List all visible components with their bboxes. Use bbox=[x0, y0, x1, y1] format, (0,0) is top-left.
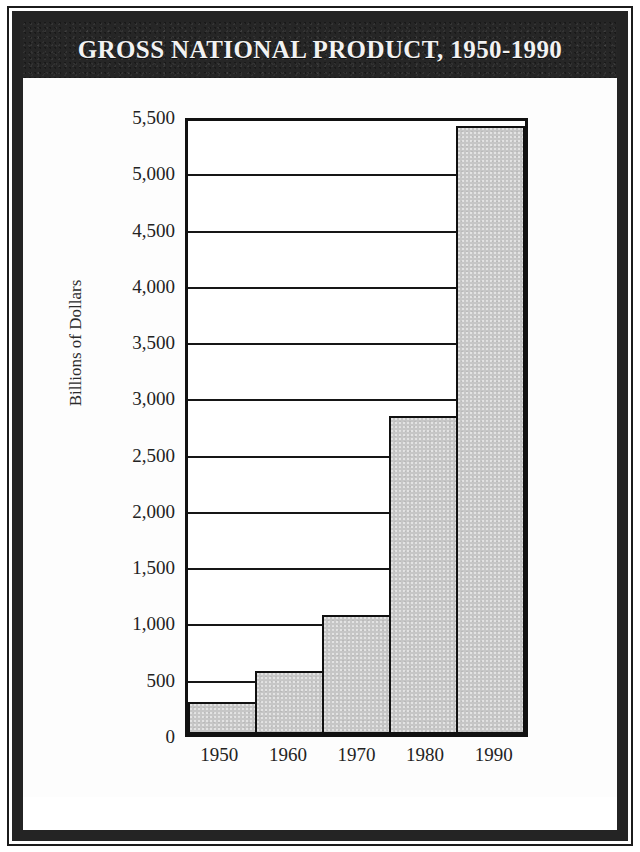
x-axis-tick-label: 1970 bbox=[322, 744, 391, 766]
y-axis-tick-label: 2,000 bbox=[79, 501, 175, 523]
x-axis-tick-labels: 19501960197019801990 bbox=[185, 744, 528, 766]
plot-area bbox=[185, 118, 528, 737]
y-axis-tick-label: 3,500 bbox=[79, 332, 175, 354]
page-title: GROSS NATIONAL PRODUCT, 1950-1990 bbox=[78, 36, 563, 64]
bar-1990 bbox=[456, 126, 525, 734]
y-axis-tick-label: 0 bbox=[79, 726, 175, 748]
x-axis-tick-label: 1950 bbox=[185, 744, 254, 766]
chart-card: Billions of Dollars 05001,0001,5002,0002… bbox=[23, 78, 617, 797]
bar-1970 bbox=[322, 615, 391, 734]
x-axis-tick-label: 1960 bbox=[254, 744, 323, 766]
y-axis-tick-labels: 05001,0001,5002,0002,5003,0003,5004,0004… bbox=[75, 118, 175, 737]
bar-1950 bbox=[188, 702, 257, 734]
poster: GROSS NATIONAL PRODUCT, 1950-1990 Billio… bbox=[0, 0, 640, 852]
bar-series bbox=[188, 121, 525, 734]
y-axis-tick-label: 4,500 bbox=[79, 220, 175, 242]
y-axis-tick-label: 2,500 bbox=[79, 445, 175, 467]
x-axis-tick-label: 1990 bbox=[459, 744, 528, 766]
y-axis-tick-label: 1,500 bbox=[79, 557, 175, 579]
y-axis-tick-label: 500 bbox=[79, 670, 175, 692]
y-axis-tick-label: 5,500 bbox=[79, 107, 175, 129]
y-axis-tick-label: 4,000 bbox=[79, 276, 175, 298]
bar-1960 bbox=[255, 671, 324, 734]
title-band: GROSS NATIONAL PRODUCT, 1950-1990 bbox=[23, 22, 617, 78]
y-axis-tick-label: 1,000 bbox=[79, 613, 175, 635]
y-axis-tick-label: 3,000 bbox=[79, 388, 175, 410]
x-axis-tick-label: 1980 bbox=[391, 744, 460, 766]
bar-1980 bbox=[389, 416, 458, 735]
chart-plot-wrapper: Billions of Dollars 05001,0001,5002,0002… bbox=[23, 78, 617, 797]
y-axis-tick-label: 5,000 bbox=[79, 163, 175, 185]
